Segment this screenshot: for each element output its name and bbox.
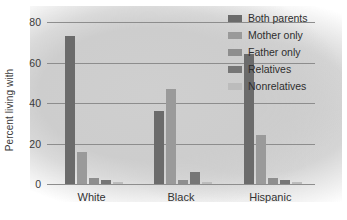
legend: Both parentsMother onlyFather onlyRelati… bbox=[228, 11, 308, 93]
legend-swatch-icon bbox=[228, 49, 242, 56]
y-axis-tick-label: 40 bbox=[29, 97, 41, 109]
bar bbox=[178, 180, 188, 184]
legend-item-label: Relatives bbox=[248, 63, 291, 75]
bar bbox=[256, 135, 266, 184]
bar bbox=[77, 152, 87, 184]
bar bbox=[154, 111, 164, 184]
legend-item-label: Father only bbox=[248, 46, 301, 58]
bar bbox=[280, 180, 290, 184]
chart-screenshot: Percent living with 020406080 WhiteBlack… bbox=[0, 0, 347, 220]
x-axis-tick-label: Black bbox=[136, 191, 225, 203]
legend-swatch-icon bbox=[228, 32, 242, 39]
bar bbox=[292, 182, 302, 184]
y-axis-tick-label: 80 bbox=[29, 16, 41, 28]
bar bbox=[113, 182, 123, 184]
bar bbox=[65, 36, 75, 184]
legend-item: Mother only bbox=[228, 28, 308, 42]
x-axis-line bbox=[47, 184, 315, 185]
bar bbox=[101, 180, 111, 184]
bar bbox=[268, 178, 278, 184]
legend-swatch-icon bbox=[228, 15, 242, 22]
x-axis-tick-label: White bbox=[47, 191, 136, 203]
legend-item: Both parents bbox=[228, 11, 308, 25]
y-axis-tick-label: 60 bbox=[29, 57, 41, 69]
legend-item: Father only bbox=[228, 45, 308, 59]
legend-swatch-icon bbox=[228, 83, 242, 90]
legend-item: Nonrelatives bbox=[228, 79, 308, 93]
y-axis-tick-label: 0 bbox=[35, 178, 41, 190]
bar bbox=[190, 172, 200, 184]
legend-item-label: Nonrelatives bbox=[248, 80, 306, 92]
y-axis-title: Percent living with bbox=[4, 50, 15, 170]
bar bbox=[89, 178, 99, 184]
bar bbox=[166, 89, 176, 184]
y-axis-tick-label: 20 bbox=[29, 138, 41, 150]
x-axis-tick-label: Hispanic bbox=[226, 191, 315, 203]
bar bbox=[202, 182, 212, 184]
legend-swatch-icon bbox=[228, 66, 242, 73]
legend-item-label: Mother only bbox=[248, 29, 303, 41]
bar-group-white: White bbox=[47, 22, 136, 184]
bar-group-black: Black bbox=[136, 22, 225, 184]
legend-item: Relatives bbox=[228, 62, 308, 76]
legend-item-label: Both parents bbox=[248, 12, 308, 24]
